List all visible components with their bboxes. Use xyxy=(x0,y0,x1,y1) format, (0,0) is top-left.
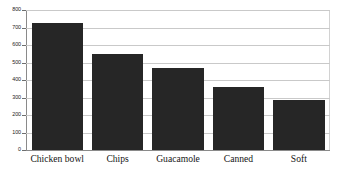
y-tick-label: 700 xyxy=(1,25,21,30)
x-tick-label: Chips xyxy=(87,153,147,171)
bar-slot xyxy=(148,10,208,150)
y-tick-mark xyxy=(22,80,26,81)
y-tick-label: 600 xyxy=(1,42,21,47)
y-tick-mark xyxy=(22,98,26,99)
y-tick-mark xyxy=(22,10,26,11)
y-tick-label: 400 xyxy=(1,77,21,82)
x-tick-label: Soft xyxy=(269,153,329,171)
y-tick-label: 300 xyxy=(1,95,21,100)
y-tick-mark xyxy=(22,28,26,29)
bar[interactable] xyxy=(273,100,324,150)
y-tick-label: 200 xyxy=(1,112,21,117)
y-tick-mark xyxy=(22,115,26,116)
x-tick-label: Canned xyxy=(208,153,268,171)
y-tick-label: 800 xyxy=(1,7,21,12)
bar-slot xyxy=(208,10,268,150)
x-tick-label: Guacamole xyxy=(148,153,208,171)
y-tick-mark xyxy=(22,63,26,64)
y-tick-label: 500 xyxy=(1,60,21,65)
bar[interactable] xyxy=(32,23,83,150)
bar-chart: 0100200300400500600700800 Chicken bowlCh… xyxy=(0,0,337,180)
y-tick-mark xyxy=(22,45,26,46)
y-tick-mark xyxy=(22,150,26,151)
y-tick-label: 0 xyxy=(1,147,21,152)
y-tick-mark xyxy=(22,133,26,134)
bar[interactable] xyxy=(213,87,264,150)
bars-container xyxy=(27,10,329,150)
y-tick-label: 100 xyxy=(1,130,21,135)
bar[interactable] xyxy=(152,68,203,150)
bar-slot xyxy=(87,10,147,150)
bar-slot xyxy=(269,10,329,150)
bar-slot xyxy=(27,10,87,150)
axis-baseline xyxy=(26,150,330,151)
x-axis-category-labels: Chicken bowlChipsGuacamoleCannedSoft xyxy=(27,153,329,171)
x-tick-label: Chicken bowl xyxy=(27,153,87,171)
bar[interactable] xyxy=(92,54,143,150)
y-axis-tick-labels: 0100200300400500600700800 xyxy=(0,10,21,150)
